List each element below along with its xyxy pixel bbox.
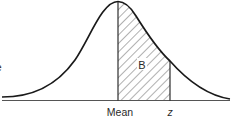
normal-curve-diagram: B Mean z e xyxy=(0,0,235,123)
bell-curve xyxy=(2,2,230,100)
z-label: z xyxy=(166,106,173,118)
edge-text-fragment: e xyxy=(0,62,2,73)
shaded-region-b xyxy=(118,0,170,100)
mean-label: Mean xyxy=(107,106,133,118)
region-label-b: B xyxy=(138,59,145,71)
